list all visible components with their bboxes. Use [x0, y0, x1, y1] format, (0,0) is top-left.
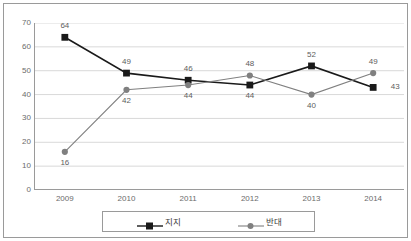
x-tick-label: 2013 [289, 194, 335, 204]
legend-square-marker-icon [137, 217, 163, 227]
legend-item-support[interactable]: 지지 [137, 217, 181, 227]
data-point-label: 44 [235, 92, 265, 100]
data-point-marker [61, 34, 68, 41]
series-line-1 [65, 73, 373, 152]
y-axis-tick-labels: 70 60 50 40 30 20 10 0 [4, 23, 31, 190]
data-point-label: 48 [235, 60, 265, 68]
data-point-label: 40 [297, 102, 327, 110]
data-point-label: 49 [358, 58, 388, 66]
data-point-label: 43 [380, 83, 410, 91]
y-tick-label: 0 [7, 186, 31, 194]
data-point-marker [62, 149, 68, 155]
data-point-marker [123, 87, 129, 93]
data-point-label: 16 [50, 159, 80, 167]
chart-container: 70 60 50 40 30 20 10 0 64494644524316424… [0, 0, 411, 241]
y-tick-label: 10 [7, 162, 31, 170]
y-tick-label: 20 [7, 138, 31, 146]
x-tick-label: 2014 [350, 194, 396, 204]
data-point-label: 52 [297, 51, 327, 59]
x-axis-tick-labels: 2009 2010 2011 2012 2013 2014 [34, 194, 404, 206]
chart-legend[interactable]: 지지 반대 [102, 211, 315, 232]
data-point-label: 49 [112, 58, 142, 66]
plot-area: 644946445243164244484049 [34, 23, 404, 190]
x-tick-label: 2010 [104, 194, 150, 204]
data-point-marker [308, 63, 315, 70]
y-tick-label: 40 [7, 91, 31, 99]
data-point-label: 42 [112, 97, 142, 105]
data-point-marker [247, 72, 253, 78]
data-point-label: 44 [173, 92, 203, 100]
y-tick-label: 70 [7, 19, 31, 27]
legend-item-oppose[interactable]: 반대 [238, 217, 282, 227]
legend-label-support: 지지 [165, 217, 181, 227]
y-tick-label: 60 [7, 43, 31, 51]
data-point-marker [185, 82, 191, 88]
legend-label-oppose: 반대 [266, 217, 282, 227]
y-tick-label: 30 [7, 114, 31, 122]
data-point-label: 64 [50, 22, 80, 30]
legend-circle-marker-icon [238, 217, 264, 227]
data-point-label: 46 [173, 65, 203, 73]
x-tick-label: 2009 [42, 194, 88, 204]
chart-frame: 70 60 50 40 30 20 10 0 64494644524316424… [3, 3, 408, 238]
data-point-marker [370, 84, 377, 91]
data-point-marker [308, 91, 314, 97]
y-tick-label: 50 [7, 67, 31, 75]
x-tick-label: 2011 [165, 194, 211, 204]
data-point-marker [123, 70, 130, 77]
plot-svg [34, 23, 404, 190]
x-tick-label: 2012 [227, 194, 273, 204]
data-point-marker [370, 70, 376, 76]
data-point-marker [246, 82, 253, 89]
